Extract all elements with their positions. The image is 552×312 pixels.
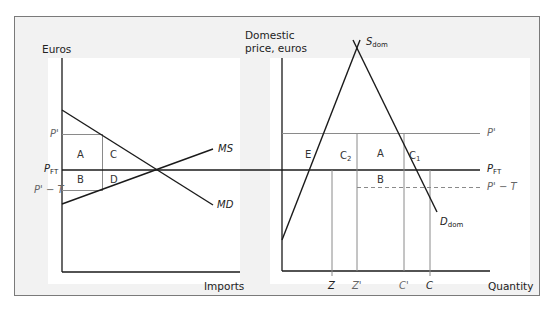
- left-pft-label: PFT: [44, 164, 58, 176]
- tick-z-prime: Z': [352, 281, 362, 291]
- left-p-prime-minus-t-label: P' − T: [34, 185, 64, 195]
- ms-label: MS: [218, 144, 233, 154]
- left-area-d: D: [110, 175, 118, 185]
- right-p-prime-label: P': [487, 128, 496, 138]
- ddom-curve: [353, 40, 437, 212]
- left-y-axis-label: Euros: [42, 44, 71, 55]
- left-area-c: C: [110, 150, 117, 160]
- right-p-prime-minus-t-label: P' − T: [487, 182, 517, 192]
- tick-c-prime: C': [399, 281, 409, 291]
- left-area-b: B: [77, 175, 84, 185]
- right-y-axis-label-2: price, euros: [245, 43, 307, 54]
- sdom-label: Sdom: [366, 37, 388, 49]
- left-p-prime-label: P': [50, 129, 59, 139]
- right-pft-label: PFT: [487, 164, 501, 176]
- left-area-a: A: [77, 150, 84, 160]
- sdom-curve: [282, 40, 360, 240]
- right-x-axis-label: Quantity: [488, 281, 533, 292]
- right-area-a: A: [377, 149, 384, 159]
- md-label: MD: [217, 200, 233, 210]
- left-x-axis-label: Imports: [204, 281, 244, 292]
- right-area-b: B: [377, 175, 384, 185]
- right-area-c1: C1: [409, 151, 420, 163]
- ddom-label: Ddom: [440, 217, 463, 229]
- right-y-axis-label-1: Domestic: [245, 30, 294, 41]
- right-area-c2: C2: [340, 151, 351, 163]
- tick-z: Z: [328, 281, 335, 291]
- right-area-e: E: [305, 150, 311, 160]
- tick-c: C: [426, 281, 433, 291]
